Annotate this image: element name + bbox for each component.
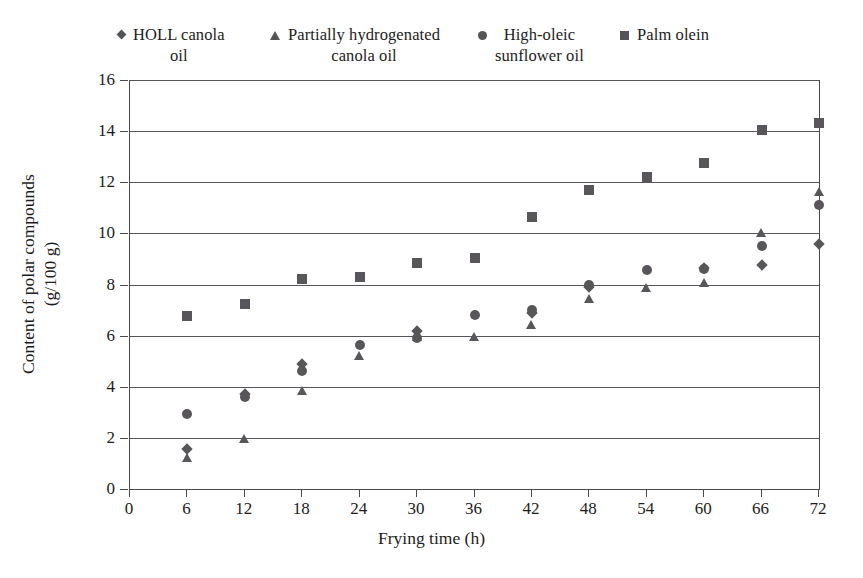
data-point: [527, 305, 537, 315]
x-axis-tick-label: 66: [741, 500, 781, 518]
x-axis-tick: [761, 489, 762, 497]
gridline: [130, 131, 819, 132]
x-axis-tick: [244, 489, 245, 497]
data-point: [641, 283, 651, 292]
legend-label: Partially hydrogenated canola oil: [288, 24, 440, 66]
gridline: [130, 182, 819, 183]
x-axis-tick-label: 42: [511, 500, 551, 518]
y-axis-tick: [120, 285, 128, 286]
data-point: [642, 265, 652, 275]
chart-legend: HOLL canola oil Partially hydrogenated c…: [118, 24, 818, 82]
y-axis-tick-label: 8: [81, 276, 115, 293]
data-point: [182, 453, 192, 462]
data-point: [412, 258, 422, 268]
data-point: [527, 212, 537, 222]
data-point: [297, 366, 307, 376]
data-point: [757, 241, 767, 251]
legend-entry-palm-olein: Palm olein: [620, 24, 720, 45]
x-axis-tick-label: 18: [281, 500, 321, 518]
x-axis-tick: [129, 489, 130, 497]
triangle-marker-icon: [270, 31, 280, 40]
y-axis-tick-label: 4: [81, 378, 115, 395]
x-axis-tick: [474, 489, 475, 497]
x-axis-tick: [588, 489, 589, 497]
x-axis-tick-label: 24: [339, 500, 379, 518]
gridline: [130, 80, 819, 81]
data-point: [355, 272, 365, 282]
legend-label: High-oleic sunflower oil: [495, 24, 584, 66]
y-axis-tick: [120, 387, 128, 388]
x-axis-tick-label: 60: [683, 500, 723, 518]
data-point: [355, 340, 365, 350]
data-point: [239, 434, 249, 443]
data-point: [699, 158, 709, 168]
y-axis-tick-label: 12: [81, 173, 115, 190]
plot-area: [129, 80, 820, 490]
data-point: [584, 185, 594, 195]
y-axis-tick: [120, 336, 128, 337]
square-marker-icon: [620, 31, 629, 40]
data-point: [412, 333, 422, 343]
x-axis-tick-label: 6: [166, 500, 206, 518]
legend-entry-partially-hydrogenated-canola-oil: Partially hydrogenated canola oil: [270, 24, 462, 66]
data-point: [182, 409, 192, 419]
y-axis-tick: [120, 489, 128, 490]
x-axis-tick: [818, 489, 819, 497]
polar-compounds-scatter-chart: HOLL canola oil Partially hydrogenated c…: [0, 0, 863, 578]
data-point: [469, 332, 479, 341]
y-axis-tick-label: 16: [81, 71, 115, 88]
data-point: [297, 274, 307, 284]
x-axis-tick-label: 30: [396, 500, 436, 518]
data-point: [756, 260, 767, 271]
gridline: [130, 233, 819, 234]
x-axis-tick-label: 54: [626, 500, 666, 518]
data-point: [182, 311, 192, 321]
x-axis-tick: [531, 489, 532, 497]
x-axis-tick-label: 48: [568, 500, 608, 518]
y-axis-tick: [120, 131, 128, 132]
y-axis-tick: [120, 438, 128, 439]
x-axis-tick-label: 12: [224, 500, 264, 518]
data-point: [470, 253, 480, 263]
data-point: [814, 187, 824, 196]
data-point: [814, 200, 824, 210]
y-axis-tick-label: 14: [81, 122, 115, 139]
legend-label: HOLL canola oil: [133, 24, 225, 66]
x-axis-tick: [646, 489, 647, 497]
data-point: [756, 228, 766, 237]
y-axis-tick-label: 0: [81, 480, 115, 497]
data-point: [240, 392, 250, 402]
data-point: [354, 351, 364, 360]
data-point: [584, 294, 594, 303]
x-axis-tick: [416, 489, 417, 497]
x-axis-tick: [186, 489, 187, 497]
gridline: [130, 285, 819, 286]
x-axis-tick-label: 72: [798, 500, 838, 518]
gridline: [130, 387, 819, 388]
diamond-marker-icon: [118, 31, 125, 38]
data-point: [699, 278, 709, 287]
gridline: [130, 438, 819, 439]
legend-entry-holl-canola-oil: HOLL canola oil: [118, 24, 254, 66]
legend-entry-high-oleic-sunflower-oil: High-oleic sunflower oil: [478, 24, 604, 66]
x-axis-title: Frying time (h): [0, 528, 863, 549]
x-axis-tick-label: 0: [109, 500, 149, 518]
data-point: [813, 238, 824, 249]
x-axis-tick: [703, 489, 704, 497]
data-point: [297, 386, 307, 395]
y-axis-tick-label: 6: [81, 327, 115, 344]
y-axis-tick-label: 10: [81, 224, 115, 241]
data-point: [699, 264, 709, 274]
data-point: [584, 280, 594, 290]
data-point: [642, 172, 652, 182]
data-point: [757, 125, 767, 135]
x-axis-tick: [301, 489, 302, 497]
data-point: [814, 118, 824, 128]
y-axis-tick: [120, 80, 128, 81]
y-axis-tick-label: 2: [81, 429, 115, 446]
x-axis-tick-label: 36: [454, 500, 494, 518]
circle-marker-icon: [478, 31, 487, 40]
y-axis-tick: [120, 182, 128, 183]
x-axis-tick: [359, 489, 360, 497]
y-axis-title: Content of polar compounds (g/100 g): [17, 149, 61, 399]
